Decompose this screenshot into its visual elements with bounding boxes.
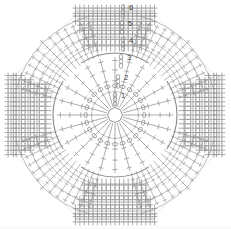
spoke-crossbar: [84, 130, 87, 135]
fan-crossbar: [193, 159, 195, 163]
fan-crossbar: [45, 162, 48, 166]
fan-crossbar: [157, 176, 161, 179]
spoke-crossbar: [96, 84, 101, 87]
stitch-chart-canvas: 123456: [0, 0, 231, 229]
fan-crossbar: [157, 52, 161, 55]
fan-crossbar: [152, 59, 156, 62]
figure-baseline: [0, 226, 231, 229]
fan-crossbar: [74, 59, 78, 62]
spoke-crossbar: [66, 140, 69, 145]
fan-crossbar: [199, 63, 201, 67]
spoke-crossbar: [134, 124, 137, 129]
fan-crossbar: [69, 52, 73, 55]
fan-crossbar: [79, 56, 83, 58]
fan-crossbar: [162, 183, 166, 186]
fan-crossbar: [75, 179, 79, 181]
round-label-2: 2: [124, 73, 128, 82]
fan-crossbar: [74, 169, 78, 172]
fan-crossbar: [179, 75, 181, 79]
fan-crossbar: [159, 35, 163, 37]
spoke-crossbar: [94, 124, 97, 129]
fan-crossbar: [59, 74, 62, 78]
spoke-crossbar: [140, 161, 145, 164]
spoke-crossbar: [85, 161, 90, 164]
spoke-crossbar: [140, 66, 145, 69]
spoke-crossbar: [75, 135, 78, 140]
fan-crossbar: [176, 69, 179, 73]
spoke-crossbar: [130, 143, 135, 146]
round-label-4: 4: [129, 36, 133, 45]
spoke-crossbar: [143, 130, 146, 135]
spoke-crossbar: [75, 90, 78, 95]
fan-crossbar: [29, 63, 31, 67]
fan-crossbar: [49, 75, 51, 79]
spoke-crossbar: [101, 134, 106, 137]
fan-crossbar: [172, 147, 174, 151]
spoke-crossbar: [134, 101, 137, 106]
radial-spoke: [121, 121, 156, 156]
round-labels-layer: 123456: [113, 3, 133, 106]
round-label-5: 5: [128, 19, 132, 28]
spoke-crossbar: [161, 140, 164, 145]
center-chain-ring: [108, 108, 123, 123]
fan-crossbar: [199, 163, 201, 167]
round-label-3: 3: [127, 53, 131, 62]
fan-crossbar: [56, 147, 58, 151]
fan-crossbar: [45, 65, 48, 69]
stitch-chart-figure: 123456: [0, 0, 231, 229]
fan-crossbar: [159, 193, 163, 195]
fan-crossbar: [67, 193, 71, 195]
fan-crossbar: [151, 49, 155, 51]
spoke-crossbar: [153, 135, 156, 140]
fan-crossbar: [29, 163, 31, 167]
spoke-crossbar: [153, 90, 156, 95]
fan-crossbar: [63, 199, 67, 201]
spoke-crossbar: [85, 66, 90, 69]
spoke-crossbar: [161, 85, 164, 90]
spoke-crossbar: [124, 134, 129, 137]
fan-crossbar: [147, 172, 151, 174]
spoke-crossbar: [135, 75, 140, 78]
fan-crossbar: [59, 152, 62, 156]
spoke-crossbar: [96, 143, 101, 146]
radial-spoke: [74, 121, 109, 156]
fan-crossbar: [52, 69, 55, 73]
spoke-crossbar: [94, 101, 97, 106]
fan-crossbar: [152, 169, 156, 172]
spoke-crossbar: [135, 153, 140, 156]
fan-crossbar: [176, 157, 179, 161]
fan-crossbar: [67, 35, 71, 37]
fan-crossbar: [169, 74, 172, 78]
fan-crossbar: [49, 151, 51, 155]
radial-spoke: [74, 74, 109, 109]
fan-crossbar: [69, 176, 73, 179]
spoke-crossbar: [143, 96, 146, 101]
fan-crossbar: [35, 67, 37, 71]
fan-crossbar: [179, 151, 181, 155]
fan-crossbar: [169, 152, 172, 156]
fan-crossbar: [35, 159, 37, 163]
spoke-crossbar: [90, 153, 95, 156]
fan-crossbar: [172, 79, 174, 83]
fan-crossbar: [63, 29, 67, 31]
fan-crossbar: [183, 65, 186, 69]
fan-crossbar: [52, 157, 55, 161]
fan-crossbar: [75, 49, 79, 51]
fan-crossbar: [56, 79, 58, 83]
chart-stitches-layer: [5, 5, 226, 226]
fan-crossbar: [147, 56, 151, 58]
fan-crossbar: [183, 162, 186, 166]
spoke-crossbar: [90, 75, 95, 78]
fan-crossbar: [151, 179, 155, 181]
fan-crossbar: [65, 45, 69, 48]
spoke-crossbar: [130, 84, 135, 87]
fan-crossbar: [162, 45, 166, 48]
round-label-6: 6: [129, 3, 133, 12]
fan-crossbar: [163, 199, 167, 201]
fan-crossbar: [79, 172, 83, 174]
spoke-crossbar: [101, 94, 106, 97]
spoke-crossbar: [84, 96, 87, 101]
spoke-crossbar: [66, 85, 69, 90]
fan-crossbar: [163, 29, 167, 31]
round-label-1: 1: [121, 91, 125, 100]
